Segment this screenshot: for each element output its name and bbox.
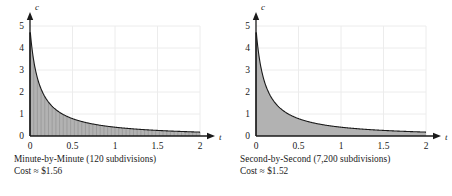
chart-svg-left: ct01234500.511.52 bbox=[0, 0, 226, 152]
caption-right: Second-by-Second (7,200 subdivisions) Co… bbox=[240, 154, 390, 177]
y-tick-label: 3 bbox=[19, 65, 24, 75]
y-tick-label: 0 bbox=[245, 131, 250, 141]
plot-area-left: ct01234500.511.52 bbox=[0, 0, 226, 152]
caption-right-line2: Cost ≈ $1.52 bbox=[240, 166, 390, 178]
x-tick-label: 2 bbox=[198, 141, 203, 151]
figure-row: ct01234500.511.52 Minute-by-Minute (120 … bbox=[0, 0, 452, 196]
x-axis-label: t bbox=[219, 132, 222, 142]
caption-left-line2: Cost ≈ $1.56 bbox=[14, 166, 156, 178]
y-axis-arrowhead bbox=[253, 12, 259, 20]
plot-area-right: ct01234500.511.52 bbox=[226, 0, 452, 152]
y-tick-label: 5 bbox=[19, 21, 24, 31]
y-tick-label: 3 bbox=[245, 65, 250, 75]
x-tick-label: 2 bbox=[424, 141, 429, 151]
x-axis-label: t bbox=[445, 132, 448, 142]
chart-svg-right: ct01234500.511.52 bbox=[226, 0, 452, 152]
y-axis-label: c bbox=[261, 2, 265, 12]
caption-right-line1: Second-by-Second (7,200 subdivisions) bbox=[240, 154, 390, 166]
y-tick-label: 5 bbox=[245, 21, 250, 31]
x-tick-label: 1.5 bbox=[152, 141, 164, 151]
x-tick-label: 1.5 bbox=[378, 141, 390, 151]
x-axis-arrowhead bbox=[207, 133, 215, 139]
x-tick-label: 0.5 bbox=[67, 141, 79, 151]
x-tick-label: 0.5 bbox=[293, 141, 305, 151]
y-tick-label: 4 bbox=[19, 43, 24, 53]
panel-minute-by-minute: ct01234500.511.52 Minute-by-Minute (120 … bbox=[0, 0, 226, 196]
y-axis-arrowhead bbox=[27, 12, 33, 20]
x-axis-arrowhead bbox=[433, 133, 441, 139]
y-tick-label: 4 bbox=[245, 43, 250, 53]
x-tick-label: 0 bbox=[254, 141, 259, 151]
x-tick-label: 0 bbox=[28, 141, 33, 151]
x-tick-label: 1 bbox=[113, 141, 118, 151]
caption-left: Minute-by-Minute (120 subdivisions) Cost… bbox=[14, 154, 156, 177]
y-axis-label: c bbox=[35, 2, 39, 12]
x-tick-label: 1 bbox=[339, 141, 344, 151]
y-tick-label: 0 bbox=[19, 131, 24, 141]
y-tick-label: 1 bbox=[19, 109, 24, 119]
y-tick-label: 1 bbox=[245, 109, 250, 119]
y-tick-label: 2 bbox=[19, 87, 24, 97]
panel-second-by-second: ct01234500.511.52 Second-by-Second (7,20… bbox=[226, 0, 452, 196]
y-tick-label: 2 bbox=[245, 87, 250, 97]
caption-left-line1: Minute-by-Minute (120 subdivisions) bbox=[14, 154, 156, 166]
